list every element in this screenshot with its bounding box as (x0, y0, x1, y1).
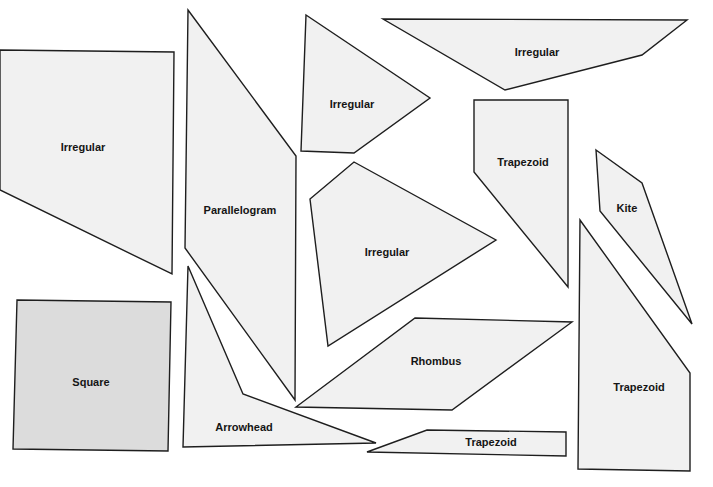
shape-square: Square (13, 300, 171, 451)
trapezoid-thin-label: Trapezoid (465, 436, 516, 448)
trapezoid-tall-label: Trapezoid (497, 156, 548, 168)
shapes-canvas: Irregular Parallelogram Irregular Irregu… (0, 0, 713, 487)
shape-trapezoid-tall: Trapezoid (474, 100, 568, 287)
arrowhead-label: Arrowhead (215, 421, 272, 433)
parallelogram-label: Parallelogram (204, 204, 277, 216)
shape-trapezoid-thin: Trapezoid (367, 430, 566, 456)
irregular-top-right-label: Irregular (515, 46, 560, 58)
square-label: Square (72, 376, 109, 388)
irregular-left-polygon (0, 50, 174, 274)
irregular-top-middle-label: Irregular (330, 98, 375, 110)
trapezoid-tall-polygon (474, 100, 568, 287)
irregular-left-label: Irregular (61, 141, 106, 153)
shape-irregular-top-right: Irregular (383, 19, 687, 90)
kite-label: Kite (617, 202, 638, 214)
trapezoid-right-polygon (578, 220, 690, 471)
shape-irregular-center: Irregular (310, 162, 496, 346)
trapezoid-right-label: Trapezoid (613, 381, 664, 393)
shape-irregular-left: Irregular (0, 50, 174, 274)
irregular-center-label: Irregular (365, 246, 410, 258)
shape-trapezoid-right: Trapezoid (578, 220, 690, 471)
rhombus-label: Rhombus (411, 355, 462, 367)
